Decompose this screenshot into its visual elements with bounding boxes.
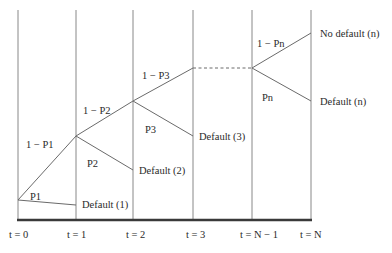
time-label-tn: t = N: [300, 229, 322, 240]
default-prob-label-3: P3: [145, 124, 156, 135]
outcome-default-1: Default (1): [82, 199, 129, 211]
outcome-no-default-n: No default (n): [320, 28, 380, 40]
time-label-t2: t = 2: [126, 229, 145, 240]
branch-default-2: [76, 136, 133, 170]
outcome-default-3: Default (3): [199, 131, 246, 143]
survive-label-1: 1 − P1: [26, 139, 54, 150]
time-label-t3: t = 3: [186, 229, 205, 240]
default-prob-label-2: P2: [87, 158, 98, 169]
tree-branches: [18, 33, 311, 205]
branch-default-3: [133, 101, 193, 136]
branch-default-n: [252, 68, 311, 101]
default-prob-label-n: Pn: [262, 92, 274, 103]
survive-label-2: 1 − P2: [83, 105, 111, 116]
time-label-tn-1: t = N − 1: [240, 229, 278, 240]
outcome-default-2: Default (2): [139, 165, 186, 177]
default-prob-label-1: P1: [30, 191, 41, 202]
time-label-t0: t = 0: [9, 229, 28, 240]
branch-default-1: [18, 200, 76, 205]
default-tree-diagram: 1 − P1 P1 1 − P2 P2 1 − P3 P3 1 − Pn Pn …: [0, 0, 392, 253]
survive-label-n: 1 − Pn: [257, 38, 285, 49]
survive-label-3: 1 − P3: [142, 70, 170, 81]
outcome-default-n: Default (n): [320, 96, 367, 108]
time-label-t1: t = 1: [67, 229, 86, 240]
